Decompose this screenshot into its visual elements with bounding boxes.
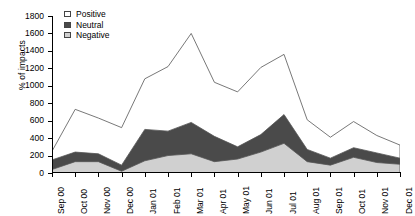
x-tick-mark bbox=[330, 173, 331, 177]
legend-label: Negative bbox=[76, 30, 110, 41]
y-tick-label: 1600 bbox=[14, 29, 44, 38]
y-tick-label: 800 bbox=[14, 99, 44, 108]
y-tick-label: 0 bbox=[14, 169, 44, 178]
legend-item-positive[interactable]: Positive bbox=[64, 9, 110, 20]
y-tick-label: 400 bbox=[14, 134, 44, 143]
x-tick-label: Sep 01 bbox=[334, 187, 344, 214]
y-tick-label: 200 bbox=[14, 151, 44, 160]
y-tick-label: 600 bbox=[14, 116, 44, 125]
x-tick-label: Nov 00 bbox=[102, 187, 112, 214]
x-tick-label: Jun 01 bbox=[264, 188, 274, 214]
x-axis-ticks: Sep 00Oct 00Nov 00Dec 00Jan 01Feb 01Mar … bbox=[52, 173, 401, 216]
y-tick-mark bbox=[48, 86, 52, 87]
y-tick-mark bbox=[48, 173, 52, 174]
x-tick-label: Feb 01 bbox=[172, 188, 182, 214]
x-tick-mark bbox=[75, 173, 76, 177]
x-tick-mark bbox=[307, 173, 308, 177]
x-tick-mark bbox=[145, 173, 146, 177]
legend-swatch-icon bbox=[64, 32, 71, 38]
y-tick-label: 1000 bbox=[14, 81, 44, 90]
legend-item-negative[interactable]: Negative bbox=[64, 30, 110, 41]
x-tick-label: Oct 00 bbox=[79, 189, 89, 214]
x-tick-mark bbox=[354, 173, 355, 177]
x-tick-label: Sep 00 bbox=[56, 187, 66, 214]
x-tick-label: Jan 01 bbox=[148, 188, 158, 214]
x-tick-label: Dec 00 bbox=[125, 187, 135, 214]
x-tick-label: Nov 01 bbox=[380, 187, 390, 214]
x-tick-label: Jul 01 bbox=[288, 191, 298, 214]
x-tick-mark bbox=[238, 173, 239, 177]
y-tick-mark bbox=[48, 121, 52, 122]
y-tick-mark bbox=[48, 156, 52, 157]
y-tick-mark bbox=[48, 68, 52, 69]
legend-swatch-icon bbox=[64, 22, 71, 28]
x-tick-label: Aug 01 bbox=[311, 187, 321, 214]
x-tick-label: May 01 bbox=[241, 186, 251, 214]
legend-label: Positive bbox=[76, 9, 106, 20]
x-tick-mark bbox=[214, 173, 215, 177]
x-tick-mark bbox=[284, 173, 285, 177]
x-tick-label: Mar 01 bbox=[195, 188, 205, 214]
x-tick-mark bbox=[122, 173, 123, 177]
x-tick-mark bbox=[98, 173, 99, 177]
x-tick-mark bbox=[52, 173, 53, 177]
x-tick-mark bbox=[191, 173, 192, 177]
y-axis-ticks: 180016001400120010008006004002000 bbox=[14, 0, 44, 216]
x-tick-mark bbox=[400, 173, 401, 177]
stacked-area-chart: % of impacts 180016001400120010008006004… bbox=[0, 0, 415, 216]
y-tick-mark bbox=[48, 103, 52, 104]
y-tick-mark bbox=[48, 51, 52, 52]
y-tick-mark bbox=[48, 138, 52, 139]
x-tick-mark bbox=[377, 173, 378, 177]
x-tick-mark bbox=[261, 173, 262, 177]
x-tick-label: Apr 01 bbox=[218, 189, 228, 214]
y-tick-label: 1800 bbox=[14, 12, 44, 21]
y-tick-label: 1200 bbox=[14, 64, 44, 73]
legend-swatch-icon bbox=[64, 11, 71, 17]
y-axis-line bbox=[52, 16, 53, 173]
x-tick-label: Dec 01 bbox=[404, 187, 414, 214]
chart-legend: PositiveNeutralNegative bbox=[64, 9, 110, 41]
y-tick-mark bbox=[48, 16, 52, 17]
x-tick-mark bbox=[168, 173, 169, 177]
x-tick-label: Oct 01 bbox=[357, 189, 367, 214]
legend-label: Neutral bbox=[76, 20, 103, 31]
y-tick-mark bbox=[48, 33, 52, 34]
y-tick-label: 1400 bbox=[14, 46, 44, 55]
legend-item-neutral[interactable]: Neutral bbox=[64, 20, 110, 31]
